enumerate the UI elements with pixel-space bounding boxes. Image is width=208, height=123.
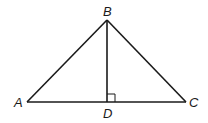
vertex-label-c: C <box>189 95 199 110</box>
vertex-label-b: B <box>103 4 112 19</box>
right-angle-marker <box>107 94 115 102</box>
triangle-abc <box>27 20 186 102</box>
vertex-label-d: D <box>103 106 112 121</box>
triangle-diagram: B A C D <box>0 0 208 123</box>
segment-bc <box>107 20 186 102</box>
segment-ab <box>27 20 107 102</box>
vertex-label-a: A <box>13 95 23 110</box>
